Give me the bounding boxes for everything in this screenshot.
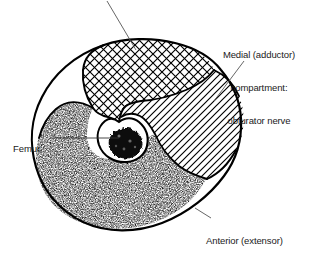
label-anterior-compartment: Anterior (extensor) compartment: femoral… bbox=[206, 213, 312, 258]
label-medial-line1: Medial (adductor) bbox=[206, 49, 312, 60]
label-medial-line3: obturator nerve bbox=[206, 115, 312, 126]
medullary-cavity bbox=[109, 128, 142, 158]
label-medial-compartment: Medial (adductor) compartment: obturator… bbox=[206, 27, 312, 137]
label-anterior-line1: Anterior (extensor) bbox=[206, 235, 312, 246]
label-femur-text: Femur bbox=[13, 143, 40, 154]
label-femur: Femur bbox=[8, 132, 40, 154]
label-medial-line2: compartment: bbox=[206, 82, 312, 93]
